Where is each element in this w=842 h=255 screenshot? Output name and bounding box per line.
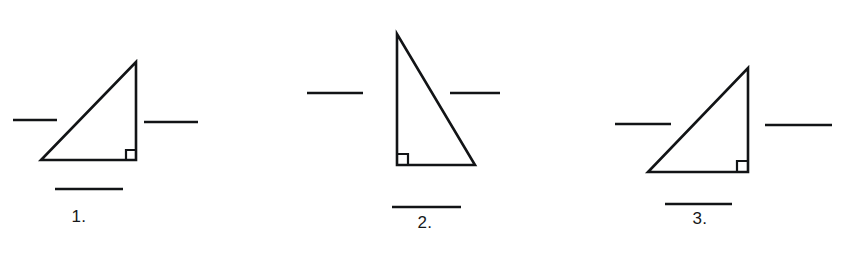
right-triangle-shape-1 <box>41 62 136 160</box>
figure-1-drawing <box>0 0 842 255</box>
figure-number-label-2: 2. <box>418 214 433 231</box>
figure-1: 1. <box>0 0 842 255</box>
right-triangle-shape-3 <box>648 68 748 172</box>
figure-2: 2. <box>0 0 842 255</box>
right-triangle-shape-2 <box>397 34 475 165</box>
right-angle-marker-3 <box>737 161 748 172</box>
figure-number-label-3: 3. <box>693 210 708 227</box>
right-angle-marker-1 <box>126 150 136 160</box>
figure-number-label-1: 1. <box>72 208 87 225</box>
figure-3: 3. <box>0 0 842 255</box>
figure-3-drawing <box>0 0 842 255</box>
right-angle-marker-2 <box>397 154 408 165</box>
figure-2-drawing <box>0 0 842 255</box>
worksheet-canvas: 1. 2. 3. <box>0 0 842 255</box>
